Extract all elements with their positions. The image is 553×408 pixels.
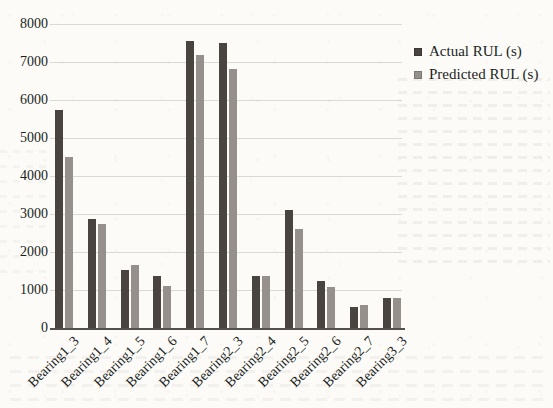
legend-item: Predicted RUL (s) (414, 63, 538, 86)
predicted-rul-bar-bearing1_6 (163, 286, 171, 328)
actual-rul-bar-bearing1_6 (153, 276, 161, 328)
actual-rul-bar-bearing2_3 (219, 43, 227, 328)
legend-label: Predicted RUL (s) (429, 66, 538, 83)
y-tick-label: 1000 (2, 283, 48, 297)
legend-swatch-icon (414, 71, 422, 79)
predicted-rul-bar-bearing2_6 (327, 287, 335, 328)
legend-label: Actual RUL (s) (429, 43, 522, 60)
legend: Actual RUL (s)Predicted RUL (s) (414, 40, 538, 86)
actual-rul-bar-bearing3_3 (383, 298, 391, 328)
actual-rul-bar-bearing2_6 (317, 281, 325, 329)
actual-rul-bar-bearing2_5 (285, 210, 293, 328)
y-tick-label: 8000 (2, 17, 48, 31)
legend-swatch-icon (414, 48, 422, 56)
y-tick-label: 2000 (2, 245, 48, 259)
predicted-rul-bar-bearing1_5 (131, 265, 139, 328)
actual-rul-bar-bearing1_7 (186, 41, 194, 328)
actual-rul-bar-bearing1_4 (88, 219, 96, 328)
actual-rul-bar-bearing2_7 (350, 307, 358, 328)
predicted-rul-bar-bearing3_3 (393, 298, 401, 328)
rul-bar-chart: 010002000300040005000600070008000 Bearin… (0, 0, 553, 408)
predicted-rul-bar-bearing1_4 (98, 224, 106, 328)
predicted-rul-bar-bearing2_7 (360, 305, 368, 328)
gridline (50, 24, 402, 25)
x-axis-line (50, 328, 405, 330)
predicted-rul-bar-bearing1_3 (65, 157, 73, 328)
predicted-rul-bar-bearing2_4 (262, 276, 270, 328)
y-tick-label: 0 (2, 321, 48, 335)
predicted-rul-bar-bearing1_7 (196, 55, 204, 328)
y-tick-label: 6000 (2, 93, 48, 107)
y-tick-label: 5000 (2, 131, 48, 145)
predicted-rul-bar-bearing2_3 (229, 69, 237, 328)
predicted-rul-bar-bearing2_5 (295, 229, 303, 328)
actual-rul-bar-bearing1_5 (121, 270, 129, 329)
legend-item: Actual RUL (s) (414, 40, 538, 63)
y-tick-label: 3000 (2, 207, 48, 221)
scanned-figure-page: 010002000300040005000600070008000 Bearin… (0, 0, 553, 408)
y-tick-label: 7000 (2, 55, 48, 69)
y-tick-label: 4000 (2, 169, 48, 183)
actual-rul-bar-bearing2_4 (252, 276, 260, 328)
actual-rul-bar-bearing1_3 (55, 110, 63, 328)
